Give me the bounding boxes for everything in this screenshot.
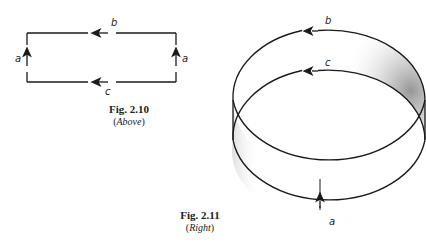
label-a-right: a bbox=[182, 54, 188, 64]
caption-sub: (Right) bbox=[170, 222, 230, 234]
label-cyl-b: b bbox=[325, 16, 331, 26]
arrow-up-icon-cyl-a bbox=[317, 193, 324, 208]
arrow-left-icon-b bbox=[92, 30, 108, 37]
top-ellipse-left bbox=[233, 31, 302, 101]
fig-2-10-rectangle bbox=[27, 33, 176, 82]
mid-ellipse-left bbox=[233, 71, 302, 141]
label-a-left: a bbox=[15, 54, 21, 64]
top-ellipse-front bbox=[233, 100, 425, 160]
fig-2-11-caption: Fig. 2.11 (Right) bbox=[170, 209, 230, 233]
arrow-left-icon-cyl-c bbox=[304, 68, 318, 75]
arrow-left-icon-c bbox=[92, 79, 108, 86]
mid-ellipse-front bbox=[233, 140, 425, 200]
fig-2-11-band bbox=[232, 28, 425, 211]
arrow-left-icon-cyl-b bbox=[304, 28, 318, 35]
label-b: b bbox=[111, 18, 117, 28]
caption-title: Fig. 2.11 bbox=[170, 209, 230, 222]
fig-2-10-caption: Fig. 2.10 (Above) bbox=[94, 103, 164, 127]
label-c: c bbox=[105, 87, 111, 97]
arrow-up-icon-a-right bbox=[173, 48, 180, 66]
arrow-up-icon-a-left bbox=[24, 48, 31, 66]
caption-title: Fig. 2.10 bbox=[94, 103, 164, 116]
caption-sub: (Above) bbox=[94, 116, 164, 128]
label-cyl-c: c bbox=[325, 58, 331, 68]
label-cyl-a: a bbox=[329, 217, 335, 227]
